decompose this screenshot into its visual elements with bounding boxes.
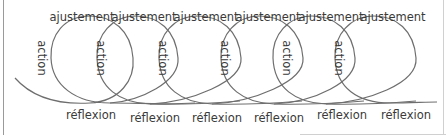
label-action-6: action [332, 40, 346, 75]
top-labels: ajustement ajustement ajustement ajustem… [49, 10, 426, 24]
label-reflexion-1: réflexion [66, 108, 116, 122]
label-ajustement-6: ajustement [360, 10, 426, 24]
label-action-3: action [156, 40, 170, 75]
label-action-5: action [280, 40, 294, 75]
label-action-1: action [35, 40, 49, 75]
label-reflexion-5: réflexion [317, 108, 367, 122]
label-action-2: action [94, 40, 108, 75]
label-reflexion-4: réflexion [254, 111, 304, 125]
spiral-diagram: ajustement ajustement ajustement ajustem… [0, 0, 446, 135]
label-reflexion-2: réflexion [130, 111, 180, 125]
label-ajustement-3: ajustement [173, 10, 239, 24]
label-action-4: action [218, 40, 232, 75]
label-reflexion-3: réflexion [192, 111, 242, 125]
label-ajustement-1: ajustement [49, 10, 115, 24]
label-ajustement-4: ajustement [235, 10, 301, 24]
label-reflexion-6: réflexion [381, 108, 431, 122]
label-ajustement-2: ajustement [111, 10, 177, 24]
bottom-labels: réflexion réflexion réflexion réflexion … [66, 108, 431, 125]
label-ajustement-5: ajustement [298, 10, 364, 24]
